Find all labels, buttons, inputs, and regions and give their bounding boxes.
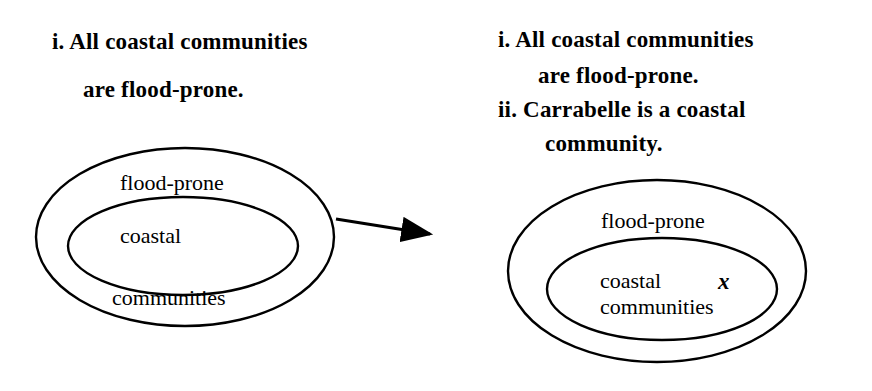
diagram-shapes <box>0 0 872 391</box>
right-premise-i-line2: are flood-prone. <box>538 64 699 87</box>
right-premise-ii-line2: community. <box>545 132 663 155</box>
left-premise-i-line1: i. All coastal communities <box>52 30 308 53</box>
right-inner-label-line2: communities <box>600 296 714 318</box>
right-premise-i-line1: i. All coastal communities <box>498 28 754 51</box>
inference-arrow <box>336 219 430 234</box>
right-inner-label-line1: coastal <box>600 270 661 292</box>
left-outer-label: flood-prone <box>120 172 224 194</box>
left-inner-label-line2: communities <box>112 287 226 309</box>
right-outer-label: flood-prone <box>601 210 705 232</box>
left-inner-label-line1: coastal <box>120 225 181 247</box>
element-x-marker: x <box>718 270 730 293</box>
left-inner-ellipse-coastal-communities <box>68 197 298 295</box>
right-premise-ii-line1: ii. Carrabelle is a coastal <box>498 98 746 121</box>
euler-diagram-figure: i. All coastal communities are flood-pro… <box>0 0 872 391</box>
left-premise-i-line2: are flood-prone. <box>83 78 244 101</box>
right-inner-ellipse-coastal-communities <box>547 238 777 340</box>
